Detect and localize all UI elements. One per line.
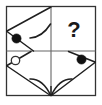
filled-dot-bottom-right bbox=[77, 55, 86, 64]
matrix-puzzle-figure: ? bbox=[0, 0, 102, 105]
hollow-dot-bottom-left bbox=[11, 56, 19, 64]
question-mark-glyph: ? bbox=[67, 17, 80, 42]
puzzle-canvas: ? bbox=[0, 0, 102, 105]
filled-dot-top-left bbox=[12, 34, 21, 43]
